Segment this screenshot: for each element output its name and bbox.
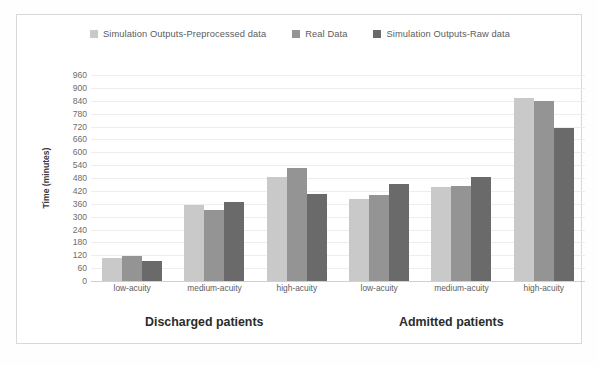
legend-item-label: Simulation Outputs-Preprocessed data: [103, 29, 266, 39]
bar: [451, 186, 471, 281]
y-axis-tick-label: 240: [73, 225, 87, 235]
bar-group: [91, 75, 173, 281]
y-axis-tick-label: 960: [73, 70, 87, 80]
bar: [204, 210, 224, 281]
section-label-discharged: Discharged patients: [145, 315, 263, 329]
bar: [431, 187, 451, 281]
bar-group: [420, 75, 502, 281]
bar: [102, 258, 122, 281]
y-axis-tick-label: 420: [73, 186, 87, 196]
bar: [122, 256, 142, 281]
x-axis-category-labels: low-acuitymedium-acuityhigh-acuitylow-ac…: [91, 283, 585, 293]
plot-area: [91, 75, 585, 281]
bar: [267, 177, 287, 281]
y-axis-tick-label: 120: [73, 250, 87, 260]
y-axis-tick-label: 900: [73, 83, 87, 93]
x-axis-category-label: low-acuity: [91, 283, 173, 293]
bar: [224, 202, 244, 281]
y-axis-tick-label: 180: [73, 237, 87, 247]
y-axis-tick-label: 780: [73, 109, 87, 119]
y-axis-tick-label: 600: [73, 147, 87, 157]
y-axis-tick-label: 60: [77, 263, 87, 273]
bar-groups: [91, 75, 585, 281]
x-axis-category-label: medium-acuity: [173, 283, 255, 293]
bar: [554, 128, 574, 281]
gridline: [91, 281, 585, 282]
bar: [389, 184, 409, 281]
legend-item-label: Real Data: [305, 29, 347, 39]
chart-page: Simulation Outputs-Preprocessed dataReal…: [0, 0, 598, 366]
legend-swatch-icon: [373, 30, 381, 38]
bar-group: [503, 75, 585, 281]
x-axis-category-label: medium-acuity: [420, 283, 502, 293]
legend-swatch-icon: [292, 30, 300, 38]
legend-item: Simulation Outputs-Raw data: [373, 29, 510, 39]
y-axis-tick-labels: 9609008407807206606005404804203603002401…: [57, 75, 87, 281]
bar: [349, 199, 369, 281]
legend-item: Simulation Outputs-Preprocessed data: [90, 29, 266, 39]
y-axis-tick-label: 480: [73, 173, 87, 183]
y-axis-title: Time (minutes): [39, 75, 53, 281]
y-axis-tick-label: 720: [73, 122, 87, 132]
bar-group: [338, 75, 420, 281]
bar: [287, 168, 307, 281]
y-axis-tick-label: 840: [73, 96, 87, 106]
y-axis-tick-label: 360: [73, 199, 87, 209]
y-axis-tick-label: 300: [73, 212, 87, 222]
legend-swatch-icon: [90, 30, 98, 38]
x-axis-category-label: low-acuity: [338, 283, 420, 293]
y-axis-title-label: Time (minutes): [41, 148, 51, 209]
bar: [534, 101, 554, 281]
bar-group: [173, 75, 255, 281]
x-axis-category-label: high-acuity: [256, 283, 338, 293]
y-axis-tick-label: 0: [82, 276, 87, 286]
legend-item: Real Data: [292, 29, 347, 39]
bar: [471, 177, 491, 281]
bar: [369, 195, 389, 281]
bar: [307, 194, 327, 281]
y-axis-tick-label: 540: [73, 160, 87, 170]
bar: [514, 98, 534, 281]
section-label-admitted: Admitted patients: [399, 315, 504, 329]
x-axis-category-label: high-acuity: [503, 283, 585, 293]
bar: [142, 261, 162, 281]
bar-group: [256, 75, 338, 281]
bar: [184, 205, 204, 281]
y-axis-tick-label: 660: [73, 134, 87, 144]
chart-frame: Simulation Outputs-Preprocessed dataReal…: [16, 14, 582, 344]
legend-item-label: Simulation Outputs-Raw data: [386, 29, 510, 39]
chart-legend: Simulation Outputs-Preprocessed dataReal…: [17, 29, 583, 39]
